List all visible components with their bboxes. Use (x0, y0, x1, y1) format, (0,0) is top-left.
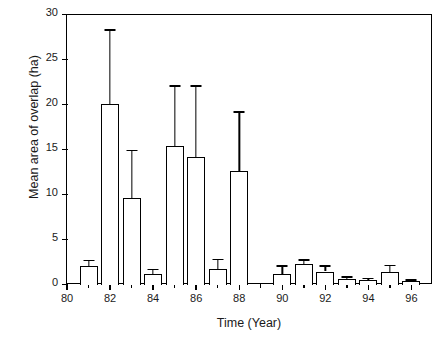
bar-95 (381, 272, 399, 286)
y-tick-label: 20 (46, 97, 58, 108)
error-bar-cap (105, 29, 116, 30)
y-tick-mark (62, 149, 68, 150)
bar-85 (166, 146, 184, 285)
error-bar-cap (341, 276, 352, 277)
error-bar-84 (144, 269, 162, 274)
error-bar-92 (316, 265, 334, 271)
error-bar-cap (320, 265, 331, 266)
x-tick-label: 80 (53, 293, 81, 304)
bar-94 (359, 280, 377, 285)
bar-92 (316, 272, 334, 286)
bar-93 (338, 279, 356, 285)
error-bar-stem (196, 85, 197, 157)
error-bar-stem (217, 259, 218, 269)
error-bar-cap (384, 265, 395, 266)
error-bar-cap (83, 260, 94, 261)
x-axis-title: Time (Year) (66, 316, 432, 330)
x-tick-label: 96 (397, 293, 425, 304)
y-tick-mark (62, 59, 68, 60)
x-tick-label: 86 (182, 293, 210, 304)
bar-87 (209, 269, 227, 285)
error-bar-cap (277, 265, 288, 266)
bar-84 (144, 274, 162, 285)
bar-91 (295, 264, 313, 285)
x-tick-label: 92 (311, 293, 339, 304)
x-tick-mark (66, 284, 67, 290)
error-bar-cap (298, 259, 309, 260)
bar-86 (187, 157, 205, 285)
error-bar-stem (131, 150, 132, 198)
error-bar-94 (359, 278, 377, 280)
y-tick-label: 15 (46, 142, 58, 153)
error-bar-87 (209, 259, 227, 269)
y-axis-title: Mean area of overlap (ha) (27, 7, 41, 247)
bar-82 (101, 104, 119, 285)
chart-figure: Mean area of overlap (ha) 051015202530 8… (0, 0, 441, 345)
bar-90 (273, 274, 291, 285)
y-tick-label: 25 (46, 52, 58, 63)
x-tick-mark (260, 284, 261, 288)
x-tick-label: 90 (268, 293, 296, 304)
error-bar-86 (187, 85, 205, 157)
x-tick-label: 84 (139, 293, 167, 304)
x-tick-label: 82 (96, 293, 124, 304)
y-tick-mark (62, 14, 68, 15)
error-bar-cap (212, 259, 223, 260)
error-bar-cap (169, 85, 180, 86)
error-bar-95 (381, 265, 399, 272)
error-bar-83 (123, 150, 141, 198)
x-tick-label: 94 (354, 293, 382, 304)
bar-81 (80, 266, 98, 285)
error-bar-stem (239, 111, 240, 170)
error-bar-81 (80, 260, 98, 266)
bar-88 (230, 171, 248, 285)
bar-96 (402, 281, 420, 285)
y-tick-label: 30 (46, 7, 58, 18)
error-bar-cap (234, 111, 245, 112)
y-tick-label: 5 (52, 232, 58, 243)
y-tick-mark (62, 104, 68, 105)
error-bar-93 (338, 276, 356, 278)
error-bar-82 (101, 29, 119, 104)
x-tick-label: 88 (225, 293, 253, 304)
error-bar-91 (295, 259, 313, 264)
y-tick-label: 10 (46, 187, 58, 198)
error-bar-cap (148, 269, 159, 270)
error-bar-stem (174, 85, 175, 146)
error-bar-cap (191, 85, 202, 86)
y-tick-mark (62, 239, 68, 240)
y-tick-mark (62, 194, 68, 195)
plot-area: 051015202530 808284868890929496 (66, 14, 432, 284)
error-bar-cap (363, 278, 374, 279)
bar-83 (123, 198, 141, 285)
error-bar-cap (126, 150, 137, 151)
error-bar-85 (166, 85, 184, 146)
error-bar-cap (406, 279, 417, 280)
y-tick-label: 0 (52, 277, 58, 288)
error-bar-stem (109, 29, 110, 104)
error-bar-88 (230, 111, 248, 170)
error-bar-96 (402, 279, 420, 281)
error-bar-90 (273, 265, 291, 274)
